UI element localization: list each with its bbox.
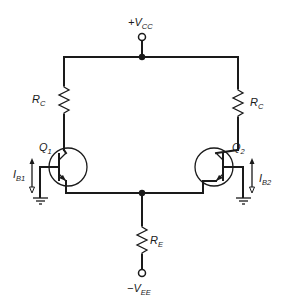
- resistor-icon: [137, 225, 147, 255]
- differential-amplifier-circuit: +VCC RC RC Q1 Q2: [0, 0, 285, 304]
- resistor-icon: [233, 88, 243, 118]
- q1-label: Q1: [39, 141, 52, 156]
- arrow-up-icon: [250, 158, 255, 164]
- vee-terminal: −VEE: [127, 270, 152, 298]
- re-label: RE: [150, 234, 164, 249]
- arrow-down-icon: [30, 187, 35, 193]
- q2-label: Q2: [232, 141, 246, 156]
- ground-right: [236, 198, 251, 204]
- rc-right-label: RC: [250, 96, 264, 111]
- current-ib1: IB1: [13, 158, 35, 193]
- arrow-down-icon: [250, 187, 255, 193]
- current-ib2: IB2: [250, 158, 273, 193]
- top-rail: [64, 54, 238, 88]
- vcc-terminal-icon: [139, 34, 146, 41]
- vee-label: −VEE: [127, 282, 152, 297]
- ib2-label: IB2: [259, 172, 272, 187]
- vee-terminal-icon: [139, 270, 146, 277]
- resistor-rc-left: RC: [32, 85, 69, 150]
- arrow-up-icon: [30, 158, 35, 164]
- vcc-label: +VCC: [128, 16, 153, 31]
- ib1-label: IB1: [13, 168, 25, 183]
- rc-left-label: RC: [32, 93, 46, 108]
- vcc-terminal: +VCC: [128, 16, 153, 57]
- resistor-icon: [59, 85, 69, 115]
- ground-left: [33, 198, 48, 204]
- resistor-re: RE: [137, 193, 164, 269]
- junction-dot-icon: [139, 54, 145, 60]
